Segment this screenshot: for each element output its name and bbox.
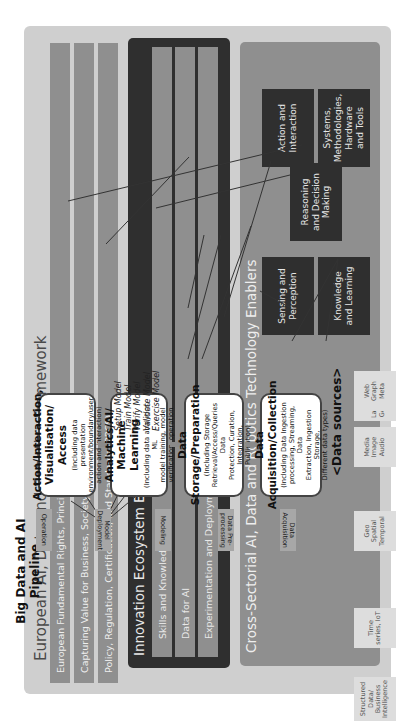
data-source-media: Media Image Audio [354, 427, 396, 467]
pipeline-step-desc: (Including Data Ingestion processing, St… [280, 399, 329, 491]
pipeline-step-title: Data Storage/Preparation [176, 385, 201, 506]
stage-tag-acquisition: Data Acquisition [280, 509, 296, 551]
pipeline-step-title: Data Acquisition/Collection [253, 381, 278, 510]
diagram-canvas: European AI, Data and Robotics Framework… [0, 0, 415, 721]
pipeline-step-desc: (Including Storage Retrieval/Access/Quer… [203, 399, 252, 491]
connector-lines [0, 0, 415, 721]
pipeline-step-action: Action/Interaction, Visualisation/ Acces… [38, 393, 96, 497]
pipeline-step-title: Action/Interaction, Visualisation/ Acces… [31, 390, 69, 501]
data-source-geo: Geo Spatial Temporal [354, 511, 396, 551]
pipeline-step-storage: Data Storage/Preparation (Including Stor… [184, 393, 244, 497]
data-source-web: Web Graph Meta [354, 371, 396, 411]
ml-step: Train Model [124, 351, 134, 431]
ml-steps-list: Setup Model Train Model Verify Model Val… [114, 351, 162, 431]
stage-tag-model-deployment: Model Deployment [95, 509, 111, 551]
ml-step: Exercise Model [152, 351, 162, 431]
data-sources-title: <Data sources> [330, 368, 344, 476]
ml-step: Setup Model [114, 351, 124, 431]
stage-tag-modeling: Modeling [155, 509, 171, 551]
ml-step: Verify Model [133, 351, 143, 431]
ml-step: Validate Model [143, 351, 153, 431]
stage-tag-preprocessing: Data Pre- processing [218, 509, 234, 551]
data-source-structured: Structured Data/ Business Intelligence [354, 677, 396, 721]
stage-tag-operation: Operation [36, 509, 52, 551]
pipeline-step-acquisition: Data Acquisition/Collection (Including D… [260, 393, 322, 497]
data-source-timeseries: Time series, IoT [354, 608, 396, 648]
